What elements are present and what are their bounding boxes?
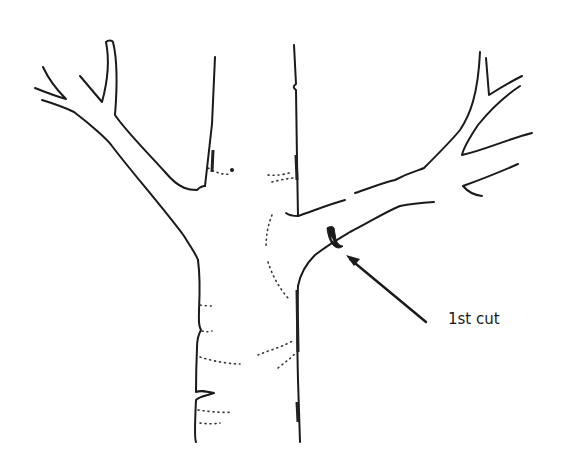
tree-pruning-diagram: 1st cut (0, 0, 561, 460)
annotation-arrow (346, 255, 426, 322)
trunk (195, 45, 300, 442)
tree-illustration (0, 0, 561, 460)
left-branch (35, 41, 205, 261)
bark-ridge-dots (198, 168, 296, 424)
right-branch (286, 52, 532, 286)
first-cut-label: 1st cut (448, 310, 500, 328)
